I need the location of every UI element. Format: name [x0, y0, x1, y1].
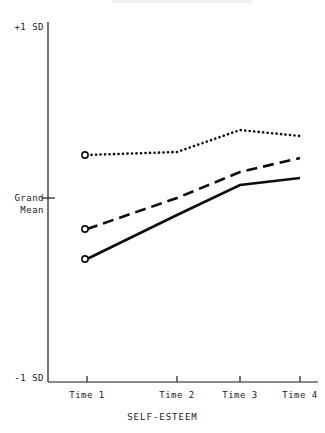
series-line-dotted: [87, 130, 300, 155]
self-esteem-line-chart: +1 SD Grand Mean -1 SD Time 1 Time 2 Tim…: [0, 0, 325, 433]
start-marker-dashed: [82, 226, 88, 232]
start-marker-solid: [82, 256, 88, 262]
series-line-solid: [87, 178, 300, 259]
plot-area: [0, 0, 325, 433]
series-start-markers: [82, 152, 88, 262]
series-line-dashed: [87, 158, 300, 229]
series-group: [87, 130, 300, 259]
start-marker-dotted: [82, 152, 88, 158]
